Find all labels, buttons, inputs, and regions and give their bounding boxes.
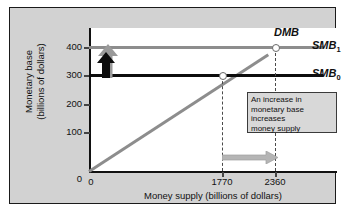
figure-frame: Monetary base (billions of dollars) 400 … xyxy=(9,7,336,204)
series-label-dmb-text: DMB xyxy=(274,26,299,38)
callout-box: An increase in monetary base increases m… xyxy=(247,92,337,133)
figure: Monetary base (billions of dollars) 400 … xyxy=(0,0,345,215)
callout-line-2: monetary base xyxy=(251,105,333,115)
x-tick-label-0: 0 xyxy=(69,176,113,187)
y-tick-100 xyxy=(84,132,90,134)
up-arrow-black-icon xyxy=(96,52,116,78)
series-label-smb0-text: SMB xyxy=(312,67,336,79)
equilibrium-node-1770 xyxy=(219,72,227,80)
y-axis-title: Monetary base (billions of dollars) xyxy=(23,6,46,158)
series-label-smb1-sub: 1 xyxy=(336,45,340,54)
series-label-smb0-sub: 0 xyxy=(336,73,340,82)
y-tick-label-100: 100 xyxy=(54,127,82,137)
y-axis-title-line1: Monetary base xyxy=(23,50,34,113)
x-tick-label-2360: 2360 xyxy=(253,176,297,187)
y-tick-label-300: 300 xyxy=(54,70,82,80)
y-tick-200 xyxy=(84,104,90,106)
y-axis xyxy=(89,28,91,173)
series-line-smb1 xyxy=(89,46,323,49)
series-label-dmb: DMB xyxy=(274,26,299,38)
callout-line-3: increases xyxy=(251,114,333,124)
callout-line-1: An increase in xyxy=(251,95,333,105)
callout-line-4: money supply xyxy=(251,124,333,134)
x-axis xyxy=(89,171,337,173)
x-axis-title: Money supply (billions of dollars) xyxy=(89,190,337,201)
right-arrow-gray-icon xyxy=(222,151,278,164)
y-axis-title-line2: (billions of dollars) xyxy=(34,43,45,120)
equilibrium-node-2360 xyxy=(272,44,280,52)
series-label-smb0: SMB0 xyxy=(312,67,341,82)
series-label-smb1-text: SMB xyxy=(312,39,336,51)
y-tick-label-400: 400 xyxy=(54,42,82,52)
series-label-smb1: SMB1 xyxy=(312,39,341,54)
series-line-smb0 xyxy=(89,74,323,77)
y-tick-label-200: 200 xyxy=(54,99,82,109)
x-tick-label-1770: 1770 xyxy=(200,176,244,187)
